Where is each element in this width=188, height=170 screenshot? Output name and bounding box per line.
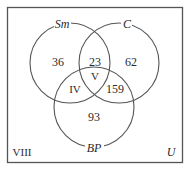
universe-label: U — [167, 145, 177, 159]
region-c-only: 62 — [125, 55, 137, 69]
region-sm-only: 36 — [52, 55, 64, 69]
region-bp-only: 93 — [88, 110, 100, 124]
region-sm-bp: IV — [69, 83, 81, 95]
venn-diagram: Sm C BP 36 23 62 V IV 159 93 VIII U — [0, 0, 188, 170]
region-c-bp: 159 — [106, 82, 124, 96]
set-label-c: C — [123, 17, 132, 31]
region-sm-c: 23 — [89, 55, 101, 69]
set-label-sm: Sm — [55, 17, 70, 31]
set-label-bp: BP — [87, 141, 102, 155]
region-outside: VIII — [13, 146, 32, 158]
region-all-three: V — [91, 70, 99, 82]
